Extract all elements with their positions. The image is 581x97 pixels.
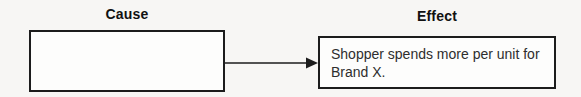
effect-box-text: Shopper spends more per unit for Brand X… <box>331 46 540 80</box>
arrowhead-icon <box>306 58 318 69</box>
cause-box <box>29 30 225 92</box>
cause-heading: Cause <box>29 6 225 22</box>
cause-to-effect-arrow <box>225 55 318 71</box>
effect-heading: Effect <box>318 8 556 24</box>
cause-effect-diagram: Cause Effect Shopper spends more per uni… <box>0 0 581 97</box>
effect-box: Shopper spends more per unit for Brand X… <box>318 36 556 89</box>
